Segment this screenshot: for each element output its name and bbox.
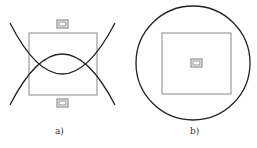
figure-canvas [0,0,257,148]
panel-b-caption: b) [190,126,199,136]
panel-a-lower-arc [10,54,115,105]
panel-b [136,6,250,120]
panel-b-center-marker-icon [191,59,202,67]
panel-a-caption: a) [55,126,64,136]
panel-a-upper-arc [10,23,115,74]
panel-a-bottom-marker-icon [57,99,68,107]
panel-b-frame [162,33,231,94]
panel-a-top-marker-icon [57,20,68,28]
panel-a [10,20,115,107]
